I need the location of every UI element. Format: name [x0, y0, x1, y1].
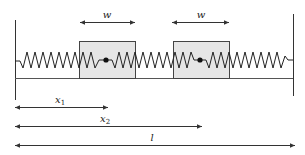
x1-label: x1 — [55, 94, 65, 107]
x2-label-subscript: 2 — [106, 118, 110, 126]
width-label-2: w — [197, 9, 206, 20]
length-label: l — [150, 132, 153, 143]
mass-2-center-dot — [197, 57, 202, 62]
mass-1-center-dot — [103, 57, 108, 62]
width-label-1: w — [103, 9, 112, 20]
x2-label: x2 — [100, 113, 110, 126]
spring-mass-diagram: w w x1 x2 l — [0, 0, 305, 155]
x1-label-subscript: 1 — [61, 99, 65, 107]
